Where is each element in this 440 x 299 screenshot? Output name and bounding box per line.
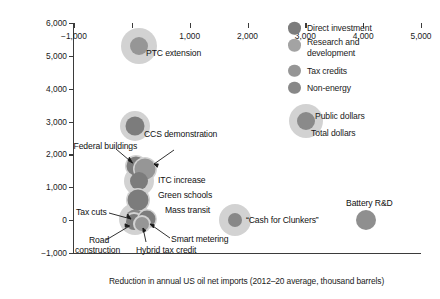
annotation-construction: construction — [75, 245, 120, 255]
legend-label-tax-credits: Tax credits — [307, 66, 347, 76]
annotation-smart-metering: Smart metering — [171, 234, 228, 244]
legend-label-research-and-development-line1: Research and — [307, 37, 359, 47]
annotation-tax-cuts: Tax cuts — [76, 207, 107, 217]
size-legend-label-public-dollars: Public dollars — [315, 111, 365, 121]
annotation-hybrid-tax-credit: Hybrid tax credit — [136, 245, 196, 255]
y-tick-label-6000: 6,000 — [46, 18, 67, 28]
annotation-ptc-extension: PTC extension — [146, 48, 201, 58]
legend-swatch-direct-investment — [288, 22, 301, 35]
y-axis-title-line2: (2012–20 average, million cubic feet) — [9, 0, 20, 18]
y-tick-label-neg1000: −1,000 — [41, 248, 67, 258]
y-axis-title: Reduction in annual US natural gas net i… — [0, 0, 19, 18]
legend-swatch-research-and-development — [288, 39, 301, 52]
size-legend-label-total-dollars: Total dollars — [311, 128, 356, 138]
annotation-ccs-demonstration: CCS demonstration — [144, 129, 217, 139]
y-tick-label-2000: 2,000 — [46, 149, 67, 159]
legend-swatch-tax-credits — [288, 64, 301, 77]
y-tick-label-1000: 1,000 — [46, 182, 67, 192]
y-tick-neg1000 — [69, 253, 74, 254]
legend-label-direct-investment: Direct investment — [307, 23, 372, 33]
y-axis-title-line1: Reduction in annual US natural gas net i… — [0, 0, 9, 18]
annotation-cash-for-clunkers: “Cash for Clunkers” — [246, 215, 319, 225]
annotation-itc-increase: ITC increase — [158, 175, 206, 185]
y-tick-label-0: 0 — [62, 215, 67, 225]
legend-swatch-non-energy — [288, 81, 301, 94]
x-axis-title: Reduction in annual US oil net imports (… — [73, 276, 420, 286]
legend-label-non-energy: Non-energy — [307, 83, 351, 93]
bubble-chart-figure: Reduction in annual US natural gas net i… — [0, 0, 440, 299]
annotation-mass-transit: Mass transit — [165, 205, 210, 215]
legend-item-direct-investment[interactable]: Direct investment — [288, 20, 438, 36]
size-legend: Public dollars Total dollars — [288, 101, 438, 143]
annotation-battery-rd: Battery R&D — [346, 198, 393, 208]
annotation-green-schools: Green schools — [158, 190, 212, 200]
legend-item-tax-credits[interactable]: Tax credits — [288, 62, 438, 79]
legend-label-research-and-development-line2: development — [307, 48, 355, 58]
legend-item-research-and-development[interactable]: Research and development — [288, 36, 438, 62]
legend: Direct investment Research and developme… — [288, 20, 438, 96]
annotation-road: Road — [89, 235, 109, 245]
y-tick-label-4000: 4,000 — [46, 84, 67, 94]
legend-item-non-energy[interactable]: Non-energy — [288, 79, 438, 96]
y-tick-label-5000: 5,000 — [46, 51, 67, 61]
y-tick-label-3000: 3,000 — [46, 117, 67, 127]
annotation-federal-buildings: Federal buildings — [74, 141, 138, 151]
